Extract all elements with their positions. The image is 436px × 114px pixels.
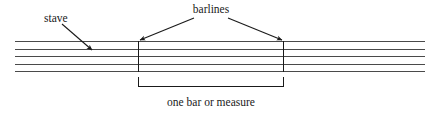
label-barlines: barlines [193, 3, 230, 15]
stave-group [15, 42, 425, 72]
stave-arrow [62, 24, 92, 50]
measure-bracket [139, 77, 284, 87]
label-one-bar-or-measure: one bar or measure [167, 96, 255, 108]
label-stave: stave [44, 12, 68, 24]
barline-left-arrow [140, 18, 194, 40]
diagram-canvas: stave barlines one bar or measure [0, 0, 436, 114]
barline-right-arrow [228, 18, 282, 40]
music-notation-diagram: stave barlines one bar or measure [0, 0, 436, 114]
annotation-arrows-group [62, 18, 282, 50]
bracket-path [139, 77, 284, 87]
